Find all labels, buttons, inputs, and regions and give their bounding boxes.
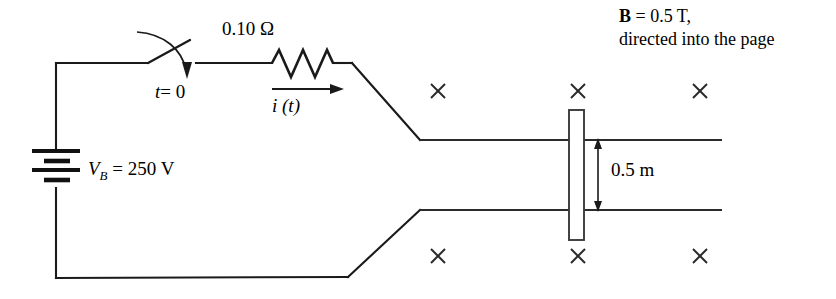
field-marker-top-2 <box>571 84 585 98</box>
switch-closing-arc <box>137 32 186 70</box>
field-marker-bottom-3 <box>693 249 707 263</box>
bfield-direction: directed into the page <box>619 29 774 51</box>
current-label: i (t) <box>272 94 300 117</box>
current-arrow-head <box>330 84 344 94</box>
bar-length-label: 0.5 m <box>611 158 654 181</box>
bfield-value: = 0.5 T, <box>636 6 692 26</box>
battery-symbol: V <box>88 158 100 179</box>
resistor-zigzag <box>272 50 333 77</box>
battery-value: = 250 V <box>112 158 174 179</box>
resistance-label: 0.10 Ω <box>222 17 274 40</box>
switch-arrow-head <box>182 62 192 79</box>
field-marker-bottom-2 <box>571 249 585 263</box>
bfield-symbol: B <box>619 6 631 26</box>
switch-time-value: = 0 <box>160 81 185 102</box>
magnetic-field-label: B = 0.5 T,directed into the page <box>619 6 774 51</box>
wire-bottom-horizontal <box>56 277 348 278</box>
switch-time-label: t= 0 <box>155 80 185 103</box>
circuit-diagram-figure: 0.10 Ω t= 0 VB = 250 V i (t) 0.5 m B = 0… <box>0 0 836 299</box>
sliding-bar[interactable] <box>569 110 584 240</box>
wire-bottom-diagonal <box>348 210 420 277</box>
field-marker-top-1 <box>431 84 445 98</box>
wire-top-diagonal <box>352 63 420 140</box>
battery-subscript: B <box>100 168 108 183</box>
field-marker-top-3 <box>693 84 707 98</box>
field-marker-bottom-1 <box>431 249 445 263</box>
battery-voltage-label: VB = 250 V <box>88 157 174 184</box>
